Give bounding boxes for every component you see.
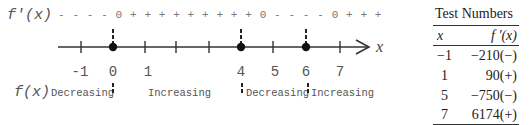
interval-label: Decreasing	[246, 87, 309, 99]
cell-x: −1	[437, 46, 452, 66]
table-row: 7 6174(+)	[433, 106, 519, 124]
test-numbers-table: Test Numbers x f '(x) −1 −210(−) 1 90(+)…	[433, 6, 519, 125]
table-bottom-rule	[433, 124, 519, 125]
cell-x: 7	[437, 106, 448, 124]
axis-variable: x	[376, 38, 383, 56]
critical-divider	[307, 83, 309, 99]
header-fprime: f '(x)	[491, 26, 517, 45]
tick-label: 4	[237, 64, 245, 80]
header-x: x	[437, 26, 443, 45]
table-row: 1 90(+)	[433, 66, 519, 86]
critical-divider	[112, 83, 114, 99]
table-header-row: x f '(x)	[433, 26, 519, 45]
tick-label: -1	[72, 64, 89, 80]
cell-fprime: −210(−)	[471, 46, 517, 66]
table-row: 5 −750(−)	[433, 86, 519, 106]
function-label: f(x)	[14, 84, 50, 101]
tick-label: 0	[109, 64, 117, 80]
interval-label: Decreasing	[51, 87, 114, 99]
tick-label: 5	[271, 64, 279, 80]
cell-x: 5	[437, 86, 448, 106]
critical-divider	[241, 83, 243, 99]
cell-fprime: 6174(+)	[472, 106, 517, 124]
table-title: Test Numbers	[429, 6, 519, 22]
interval-label: Increasing	[148, 87, 211, 99]
table-row: −1 −210(−)	[433, 46, 519, 66]
interval-label: Increasing	[311, 87, 374, 99]
tick-label: 6	[302, 64, 310, 80]
cell-fprime: 90(+)	[486, 66, 517, 86]
tick-label: 1	[144, 64, 152, 80]
cell-fprime: −750(−)	[471, 86, 517, 106]
cell-x: 1	[437, 66, 448, 86]
tick-label: 7	[336, 64, 344, 80]
number-line	[0, 0, 400, 125]
